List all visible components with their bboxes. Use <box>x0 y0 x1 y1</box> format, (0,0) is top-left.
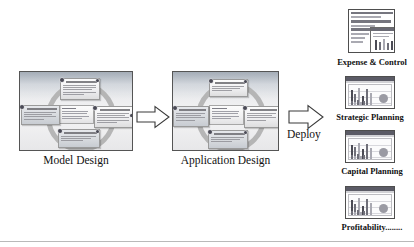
callout-title <box>64 132 97 134</box>
bar <box>351 211 353 215</box>
pie-chart <box>379 94 388 103</box>
sub-window <box>370 27 395 53</box>
sheet-row <box>373 33 393 34</box>
callout-lines <box>212 86 245 95</box>
callout-title <box>214 133 245 135</box>
bar <box>391 41 393 50</box>
callout-node-right <box>244 106 279 128</box>
center-box <box>209 105 244 125</box>
callout-title <box>215 82 245 84</box>
callout-node-top <box>209 79 248 97</box>
deploy-label: Deploy <box>287 128 321 140</box>
bar <box>354 212 356 215</box>
thumbnail-strategic-planning[interactable] <box>345 76 395 109</box>
sheet-header-row <box>351 12 393 14</box>
thumbnail-profitability[interactable] <box>345 186 395 219</box>
sub-window-title-bar <box>371 28 395 31</box>
window-menu-bar <box>346 81 394 83</box>
callout-node-left <box>21 105 60 125</box>
sheet-row <box>351 41 363 43</box>
model-design-panel <box>19 71 133 151</box>
window-title-bar <box>346 131 394 135</box>
bar <box>370 148 372 159</box>
callout-node-bottom <box>58 129 100 148</box>
sheet-row <box>373 36 389 37</box>
bar <box>370 93 372 105</box>
node-dot <box>208 130 212 134</box>
callout-lines <box>61 136 97 146</box>
window-title-bar <box>346 187 394 191</box>
bar <box>354 156 356 159</box>
node-dot <box>209 79 213 83</box>
bar <box>366 144 368 159</box>
bar <box>351 155 353 159</box>
pie-chart <box>379 148 388 157</box>
bar <box>387 43 389 50</box>
application-design-caption: Application Design <box>162 154 289 166</box>
node-dot <box>244 131 247 134</box>
callout-title <box>100 109 130 111</box>
bar <box>360 156 362 159</box>
label-profitability: Profitability........ <box>324 222 414 232</box>
bar <box>383 39 385 50</box>
diagram-canvas: Model Design <box>0 0 414 247</box>
model-design-caption: Model Design <box>19 154 133 166</box>
chart-plot-area <box>348 138 392 160</box>
callout-node-left <box>173 106 209 127</box>
bar <box>351 101 353 105</box>
callout-title <box>179 109 206 111</box>
node-dot <box>130 114 133 117</box>
bar <box>379 42 381 50</box>
callout-title <box>66 81 97 83</box>
gridline <box>349 91 391 92</box>
arrow-model-to-application-icon <box>136 105 170 129</box>
node-dot <box>60 78 64 82</box>
sheet-row <box>351 37 365 39</box>
window-menu-bar <box>346 191 394 193</box>
bar <box>357 210 359 215</box>
node-dot <box>58 129 62 133</box>
callout-node-bottom <box>208 130 248 149</box>
bar <box>360 212 362 215</box>
bar <box>375 40 377 50</box>
deploy-arrow-icon <box>288 104 324 130</box>
label-capital-planning: Capital Planning <box>324 166 414 176</box>
callout-lines <box>211 137 245 147</box>
sheet-row <box>351 16 381 18</box>
bar <box>366 89 368 105</box>
node-dot <box>244 80 247 83</box>
node-dot <box>96 79 99 82</box>
bar <box>354 102 356 105</box>
callout-lines <box>63 85 97 98</box>
callout-lines <box>24 112 57 123</box>
bar <box>366 199 368 215</box>
node-dot <box>243 106 247 110</box>
callout-node-right <box>94 106 133 128</box>
bar <box>363 155 365 159</box>
pie-chart <box>379 204 388 213</box>
thumbnail-expense-and-control[interactable] <box>348 9 395 53</box>
bar <box>357 100 359 105</box>
node-dot <box>173 106 177 110</box>
bar <box>360 102 362 105</box>
thumbnail-capital-planning[interactable] <box>345 130 395 163</box>
window-menu-bar <box>346 135 394 137</box>
application-design-panel <box>172 71 279 151</box>
bar <box>363 211 365 215</box>
label-strategic-planning: Strategic Planning <box>322 112 414 122</box>
center-box <box>59 105 94 124</box>
chart-plot-area <box>348 84 392 106</box>
bar <box>370 203 372 215</box>
gridline <box>349 201 391 202</box>
bar <box>363 101 365 105</box>
bar <box>357 154 359 159</box>
chart-plot-area <box>348 194 392 216</box>
callout-lines <box>97 113 130 126</box>
window-title-bar <box>346 77 394 81</box>
node-dot <box>20 105 24 109</box>
callout-title <box>250 109 277 111</box>
sheet-row <box>351 20 391 23</box>
bottom-divider <box>0 241 414 242</box>
node-dot <box>96 130 99 133</box>
sheet-row <box>351 33 369 35</box>
